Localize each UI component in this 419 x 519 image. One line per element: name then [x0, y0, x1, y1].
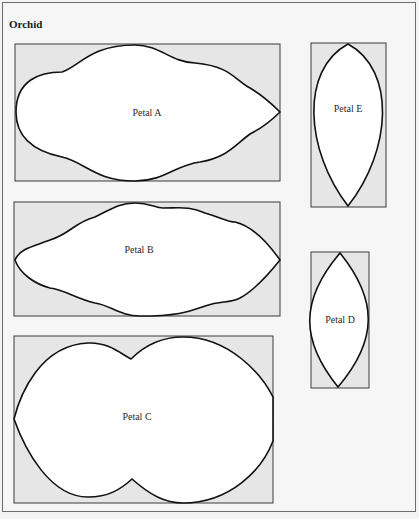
- petal-d-label: Petal D: [325, 314, 355, 325]
- petal-a: Petal A: [15, 44, 280, 181]
- petal-diagram: Petal A Petal B Petal C Petal D Petal E: [0, 0, 419, 519]
- petal-e-label: Petal E: [334, 103, 363, 114]
- petal-a-label: Petal A: [132, 107, 162, 118]
- petal-c-label: Petal C: [122, 411, 151, 422]
- petal-b: Petal B: [14, 202, 280, 316]
- petal-b-label: Petal B: [124, 244, 153, 255]
- petal-c: Petal C: [14, 336, 273, 503]
- petal-e: Petal E: [311, 43, 386, 207]
- petal-d: Petal D: [310, 252, 369, 388]
